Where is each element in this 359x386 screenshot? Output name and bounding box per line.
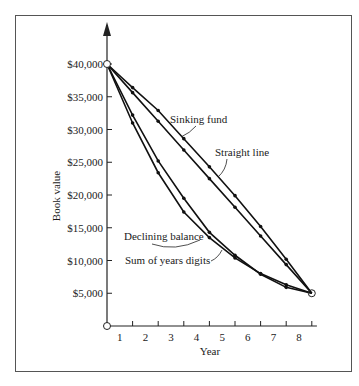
chart-frame — [16, 16, 352, 372]
x-axis-tick-labels: 12345678 — [117, 331, 302, 343]
label-straight-line: Straight line — [215, 146, 269, 158]
x-axis-label: Year — [200, 345, 221, 357]
x-tick-label: 7 — [271, 331, 277, 343]
x-tick-label: 2 — [143, 331, 149, 343]
y-tick-label: $25,000 — [67, 156, 103, 168]
depreciation-chart: $5,000$10,000$15,000$20,000$25,000$30,00… — [0, 0, 359, 386]
start-circle-icon — [104, 61, 111, 68]
y-tick-label: $35,000 — [67, 91, 103, 103]
data-point — [208, 231, 212, 235]
data-point — [259, 225, 263, 229]
data-point — [182, 148, 186, 152]
leader-sum-of-years-digits — [211, 250, 222, 261]
data-point — [182, 137, 186, 141]
data-point — [131, 91, 135, 95]
data-point — [131, 113, 135, 117]
data-point — [284, 263, 288, 267]
x-tick-label: 1 — [117, 331, 123, 343]
y-tick-label: $30,000 — [67, 124, 103, 136]
data-point — [182, 210, 186, 214]
data-point — [131, 86, 135, 90]
label-sum-of-years-digits: Sum of years digits — [125, 254, 210, 266]
y-tick-label: $10,000 — [67, 255, 103, 267]
x-tick-label: 8 — [296, 331, 302, 343]
y-tick-label: $5,000 — [73, 287, 104, 299]
y-tick-label: $40,000 — [67, 58, 103, 70]
data-point — [284, 257, 288, 261]
x-tick-label: 6 — [245, 331, 251, 343]
data-point — [233, 194, 237, 198]
data-point — [182, 196, 186, 200]
y-axis-label: Book value — [50, 171, 62, 222]
data-point — [156, 171, 160, 175]
x-tick-label: 3 — [168, 331, 174, 343]
y-axis-tick-labels: $5,000$10,000$15,000$20,000$25,000$30,00… — [67, 58, 103, 299]
leader-straight-line — [218, 159, 227, 177]
x-tick-label: 5 — [219, 331, 225, 343]
y-axis-arrow-icon — [103, 22, 111, 36]
label-declining-balance: Declining balance — [124, 230, 204, 242]
y-tick-label: $15,000 — [67, 222, 103, 234]
data-point — [233, 256, 237, 260]
leader-sinking-fund — [181, 126, 196, 137]
data-point — [284, 283, 288, 287]
x-tick-label: 4 — [194, 331, 200, 343]
data-point — [208, 236, 212, 240]
data-point — [131, 121, 135, 125]
data-point — [208, 177, 212, 181]
data-point — [156, 120, 160, 124]
y-tick-label: $20,000 — [67, 189, 103, 201]
data-point — [208, 165, 212, 169]
label-sinking-fund: Sinking fund — [170, 113, 228, 125]
data-point — [259, 234, 263, 238]
origin-circle-icon — [104, 323, 111, 330]
data-point — [233, 205, 237, 209]
data-point — [156, 109, 160, 113]
data-point — [156, 159, 160, 163]
data-point — [259, 272, 263, 276]
